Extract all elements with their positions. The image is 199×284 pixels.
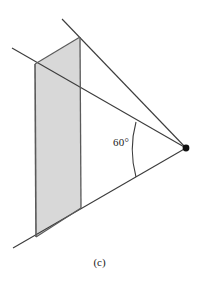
shaded-plane-polygon bbox=[35, 37, 81, 237]
plane-left-edge bbox=[35, 64, 36, 237]
angle-label-60-degrees: 60° bbox=[104, 136, 138, 148]
figure-container: 60° (c) bbox=[0, 0, 199, 284]
apex-vertex-dot bbox=[183, 145, 190, 152]
angle-arc bbox=[132, 122, 136, 177]
geometry-diagram bbox=[0, 0, 199, 284]
figure-caption: (c) bbox=[0, 256, 199, 268]
